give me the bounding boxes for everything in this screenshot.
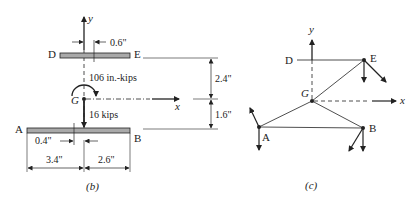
x-axis-label: x	[174, 100, 180, 112]
c-label-e: E	[370, 52, 377, 64]
lower-height-dimension: 1.6"	[215, 109, 232, 120]
line-ga	[259, 101, 312, 127]
label-e: E	[134, 48, 141, 60]
diagram-canvas: y D E 0.6" 106 in.-kips G x 16 kips A B	[0, 0, 417, 202]
label-d: D	[48, 48, 56, 60]
c-label-d: D	[285, 54, 293, 66]
de-offset-dimension: 0.6"	[110, 37, 127, 48]
upper-height-dimension: 2.4"	[215, 73, 232, 84]
y-axis-label: y	[87, 12, 93, 24]
label-g: G	[71, 94, 79, 106]
c-label-g: G	[301, 87, 309, 99]
line-ge	[312, 60, 364, 101]
ab-offset-dimension: 0.4"	[35, 135, 52, 146]
moment-label: 106 in.-kips	[89, 72, 137, 83]
line-ab	[259, 127, 363, 128]
c-label-b: B	[369, 122, 376, 134]
c-x-axis-label: x	[399, 94, 405, 106]
a-diagonal-force-arrow	[250, 108, 259, 127]
caption-b: (b)	[86, 180, 99, 193]
label-a: A	[15, 123, 23, 135]
figure-b: y D E 0.6" 106 in.-kips G x 16 kips A B	[15, 12, 232, 193]
bar-ab	[27, 128, 130, 133]
right-span-dimension: 2.6"	[98, 154, 115, 165]
label-b: B	[134, 132, 141, 144]
left-span-dimension: 3.4"	[46, 154, 63, 165]
caption-c: (c)	[305, 179, 318, 192]
force-label: 16 kips	[89, 109, 118, 120]
line-gb	[312, 101, 363, 128]
point-g	[82, 97, 86, 101]
b-diagonal-force-arrow	[349, 128, 363, 151]
bar-de	[60, 53, 130, 58]
c-label-a: A	[262, 131, 270, 143]
c-y-axis-label: y	[308, 23, 314, 35]
figure-c: y D E G x A B (c)	[250, 23, 405, 192]
